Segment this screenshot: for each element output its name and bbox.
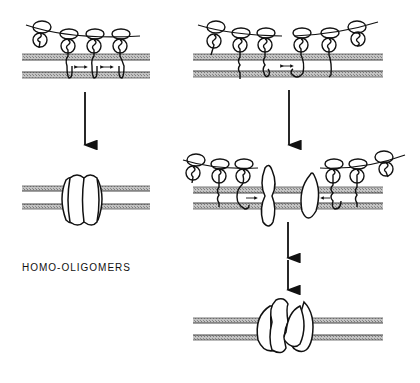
right-intermediate-assembly — [183, 151, 405, 226]
left-homo-oligomer — [22, 175, 150, 225]
homo-oligomers-label: HOMO-OLIGOMERS — [22, 262, 131, 273]
left-membrane-monomers — [22, 21, 150, 78]
oligomerization-diagram — [0, 0, 420, 383]
right-membrane-monomers — [193, 21, 383, 79]
right-hetero-oligomer — [193, 299, 383, 353]
